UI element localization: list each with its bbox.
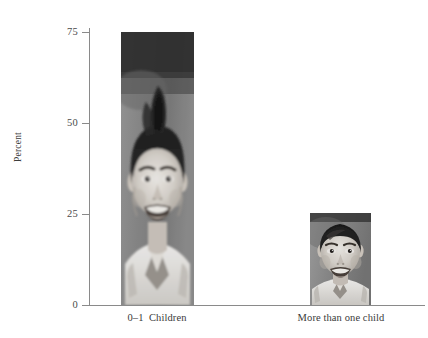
y-tick-label: 50 [38, 118, 78, 129]
y-tick-mark [82, 305, 90, 306]
y-tick-75: 75 [0, 32, 90, 33]
y-axis-title: Percent [13, 117, 23, 177]
y-tick-0: 0 [0, 305, 90, 306]
y-tick-label: 75 [38, 27, 78, 38]
bar-0-1-children[interactable] [121, 32, 194, 305]
y-axis-line [89, 28, 90, 306]
child-photo-icon [310, 213, 371, 305]
y-tick-mark [82, 123, 90, 124]
y-tick-50: 50 [0, 123, 90, 124]
x-axis-label-category-1: More than one child [281, 312, 401, 323]
y-tick-mark [82, 214, 90, 215]
y-tick-25: 25 [0, 214, 90, 215]
child-photo-icon [121, 32, 194, 305]
y-tick-mark [82, 32, 90, 33]
x-axis-label-category-0: 0–1 Children [97, 312, 217, 323]
bar-more-than-one-child[interactable] [310, 213, 371, 305]
y-tick-label: 0 [38, 300, 78, 311]
bar-chart: Percent 75 50 25 0 [0, 0, 428, 338]
x-axis-line [89, 305, 425, 306]
y-tick-label: 25 [38, 209, 78, 220]
